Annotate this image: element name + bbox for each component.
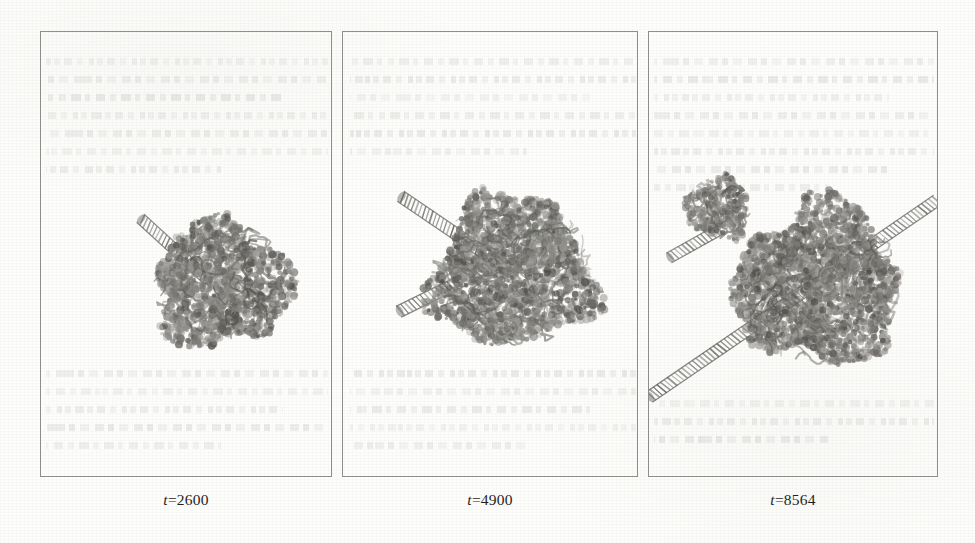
- panel-2-caption-value: =4900: [472, 491, 513, 508]
- molecule-render-panel-3: [649, 32, 937, 476]
- molecule-render-panel-1: [41, 32, 331, 476]
- panel-3-caption-value: =8564: [775, 491, 816, 508]
- snapshot-panel-3: [648, 31, 938, 477]
- panel-3-content: [649, 32, 937, 476]
- snapshot-panel-2: [342, 31, 638, 477]
- panel-1-content: [41, 32, 331, 476]
- panel-1-caption-value: =2600: [168, 491, 209, 508]
- panel-2-content: [343, 32, 637, 476]
- satellite-blob-group: [682, 171, 750, 244]
- core-blob-group: [728, 186, 904, 367]
- molecule-render-panel-2: [343, 32, 637, 476]
- snapshot-panel-1: [40, 31, 332, 477]
- core-blob-group: [419, 184, 608, 346]
- panel-2-caption: t=4900: [342, 491, 638, 509]
- panel-1-caption: t=2600: [40, 491, 332, 509]
- panel-3-caption: t=8564: [648, 491, 938, 509]
- core-blob-group: [154, 210, 299, 350]
